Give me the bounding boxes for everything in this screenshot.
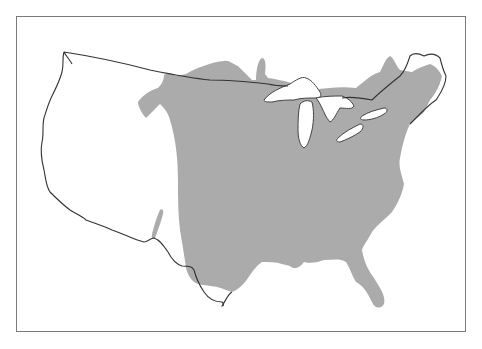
map-canvas [0,0,482,349]
texas-isolated-patch [152,209,164,239]
